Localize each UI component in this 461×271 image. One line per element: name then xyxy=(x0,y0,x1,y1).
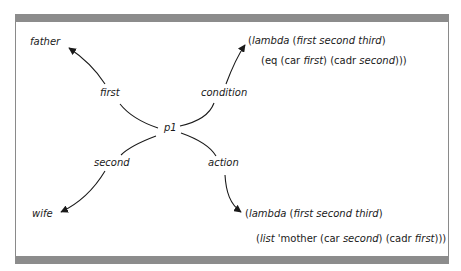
edge-label-action: action xyxy=(208,157,239,169)
edge-condition-upper xyxy=(226,45,245,84)
condition-lambda-line2: (eq (car first) (cadr second))) xyxy=(261,55,407,67)
edge-action-upper xyxy=(181,133,216,156)
edge-label-first: first xyxy=(100,87,120,99)
edge-condition-lower xyxy=(180,103,214,126)
edge-second-upper xyxy=(121,136,156,155)
edge-label-second: second xyxy=(94,157,130,169)
node-father: father xyxy=(30,36,60,48)
edge-first-upper xyxy=(69,48,105,84)
condition-lambda-line1: (lambda (first second third) xyxy=(248,35,386,47)
action-lambda-line1: (lambda (first second third) xyxy=(245,208,383,220)
node-wife: wife xyxy=(32,208,53,220)
edge-action-lower xyxy=(225,175,241,212)
diagram-edges xyxy=(0,0,461,271)
edge-second-lower xyxy=(61,171,105,212)
action-lambda-line2: (list 'mother (car second) (cadr first))… xyxy=(256,233,446,245)
edge-first-lower xyxy=(120,104,158,128)
node-p1: p1 xyxy=(164,122,177,134)
edge-label-condition: condition xyxy=(201,87,247,99)
